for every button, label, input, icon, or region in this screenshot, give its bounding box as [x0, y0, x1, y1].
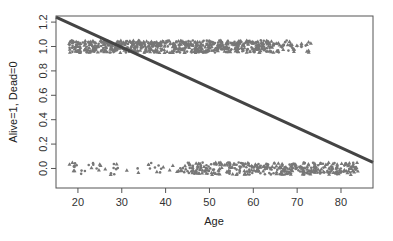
svg-text:20: 20 [72, 196, 84, 208]
svg-text:0.6: 0.6 [37, 88, 49, 103]
y-axis-label: Alive=1, Dead=0 [7, 61, 19, 142]
svg-text:30: 30 [116, 196, 128, 208]
svg-text:70: 70 [291, 196, 303, 208]
y-axis: 0.00.20.40.60.81.01.2 [37, 14, 56, 176]
svg-text:0.2: 0.2 [37, 136, 49, 151]
regression-line [56, 17, 373, 162]
svg-text:1.0: 1.0 [37, 39, 49, 54]
svg-text:60: 60 [247, 196, 259, 208]
svg-text:0.4: 0.4 [37, 112, 49, 127]
svg-text:40: 40 [159, 196, 171, 208]
svg-text:0.0: 0.0 [37, 161, 49, 176]
scatter-chart: 20304050607080 0.00.20.40.60.81.01.2 Age… [0, 0, 393, 241]
svg-text:80: 80 [335, 196, 347, 208]
data-points [67, 38, 360, 176]
x-axis: 20304050607080 [72, 188, 347, 208]
svg-text:0.8: 0.8 [37, 63, 49, 78]
svg-text:1.2: 1.2 [37, 14, 49, 29]
svg-text:50: 50 [203, 196, 215, 208]
x-axis-label: Age [204, 215, 224, 227]
